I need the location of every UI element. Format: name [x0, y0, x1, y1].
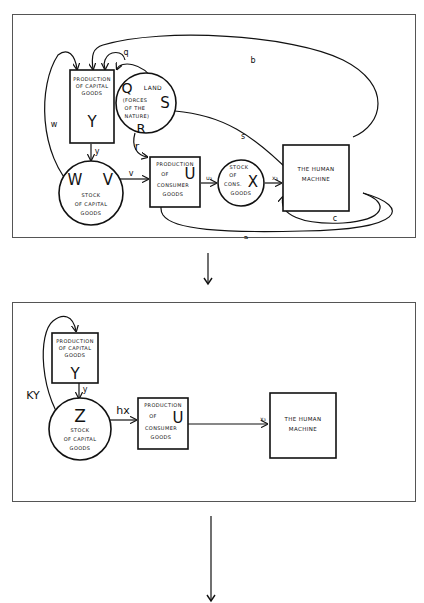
edge-label-v: v	[129, 169, 134, 178]
svg-text:LAND: LAND	[144, 84, 162, 91]
svg-text:STOCK: STOCK	[82, 192, 101, 198]
svg-text:GOODS: GOODS	[82, 90, 103, 96]
svg-text:Y: Y	[86, 113, 97, 131]
edge-label-x3: x₃	[260, 415, 267, 422]
svg-text:R: R	[136, 121, 145, 136]
svg-text:S: S	[160, 94, 170, 112]
capital-production-node: PRODUCTION OF CAPITAL GOODS Y	[52, 333, 98, 383]
edge-label-y: y	[83, 385, 88, 394]
edge-label-s: s	[241, 132, 245, 141]
svg-text:Z: Z	[74, 406, 86, 426]
svg-text:Q: Q	[121, 80, 132, 96]
svg-text:OF CAPITAL: OF CAPITAL	[64, 436, 97, 442]
edge-label-u3: u₃	[206, 174, 213, 181]
capital-stock-node: Z STOCK OF CAPITAL GOODS	[49, 398, 111, 460]
svg-text:PRODUCTION: PRODUCTION	[73, 76, 111, 82]
svg-text:THE HUMAN: THE HUMAN	[296, 166, 334, 172]
edge-label-c: c	[333, 214, 337, 223]
down-arrow-1	[204, 253, 212, 284]
simplified-economy-diagram-panel: PRODUCTION OF CAPITAL GOODS Y Z STOCK OF…	[12, 302, 416, 502]
svg-text:U: U	[173, 409, 184, 427]
svg-text:NATURE): NATURE)	[125, 113, 150, 119]
consumer-production-node: PRODUCTION OF CONSUMER GOODS U	[138, 398, 188, 449]
svg-text:OF CAPITAL: OF CAPITAL	[59, 345, 92, 351]
svg-text:Y: Y	[69, 365, 80, 383]
svg-text:OF: OF	[149, 413, 157, 419]
svg-text:OF: OF	[229, 172, 237, 178]
svg-text:X: X	[248, 173, 258, 191]
svg-text:W: W	[68, 171, 83, 189]
consumer-stock-node: STOCK OF CONS. GOODS X	[218, 160, 264, 206]
edge-label-y: y	[95, 147, 100, 156]
simplified-economy-diagram: PRODUCTION OF CAPITAL GOODS Y Z STOCK OF…	[13, 303, 417, 503]
svg-text:V: V	[103, 171, 114, 189]
capital-stock-node: W V STOCK OF CAPITAL GOODS	[59, 161, 123, 225]
edge-label-w: w	[51, 120, 58, 129]
svg-text:GOODS: GOODS	[151, 434, 172, 440]
svg-text:GOODS: GOODS	[81, 210, 102, 216]
svg-text:(FORCES: (FORCES	[123, 97, 148, 103]
full-economy-diagram-panel: PRODUCTION OF CAPITAL GOODS Y Q LAND (FO…	[12, 14, 416, 238]
svg-text:GOODS: GOODS	[65, 352, 86, 358]
down-arrow-2	[207, 516, 215, 601]
consumer-production-node: PRODUCTION OF CONSUMER GOODS U	[150, 157, 200, 207]
edge-label-ky: KY	[26, 389, 40, 402]
svg-text:STOCK: STOCK	[71, 427, 90, 433]
svg-text:U: U	[185, 165, 196, 183]
svg-text:OF THE: OF THE	[125, 105, 146, 111]
svg-text:PRODUCTION: PRODUCTION	[144, 402, 182, 408]
svg-text:OF CAPITAL: OF CAPITAL	[75, 201, 108, 207]
land-node: Q LAND (FORCES OF THE NATURE) S R	[116, 73, 176, 136]
human-machine-node: THE HUMAN MACHINE	[270, 393, 336, 458]
svg-text:OF CAPITAL: OF CAPITAL	[76, 83, 109, 89]
human-machine-node: THE HUMAN MACHINE	[283, 145, 349, 211]
capital-production-node: PRODUCTION OF CAPITAL GOODS Y	[70, 70, 114, 143]
svg-text:PRODUCTION: PRODUCTION	[56, 338, 94, 344]
svg-text:GOODS: GOODS	[70, 445, 91, 451]
edge-label-q: q	[123, 48, 128, 57]
svg-text:OF: OF	[161, 171, 169, 177]
edge-label-a: a	[244, 234, 249, 239]
edge-label-r: r	[135, 140, 140, 153]
edge-label-hx: hx	[116, 404, 130, 417]
svg-text:THE HUMAN: THE HUMAN	[283, 416, 321, 422]
svg-text:MACHINE: MACHINE	[289, 426, 318, 432]
svg-text:MACHINE: MACHINE	[302, 176, 331, 182]
svg-text:GOODS: GOODS	[163, 191, 184, 197]
edge-q	[104, 53, 125, 70]
full-economy-diagram: PRODUCTION OF CAPITAL GOODS Y Q LAND (FO…	[13, 15, 417, 239]
svg-text:STOCK: STOCK	[230, 164, 249, 170]
svg-text:CONS.: CONS.	[224, 181, 242, 187]
edge-label-x3: x₃	[272, 174, 279, 181]
edge-label-b: b	[250, 56, 255, 65]
